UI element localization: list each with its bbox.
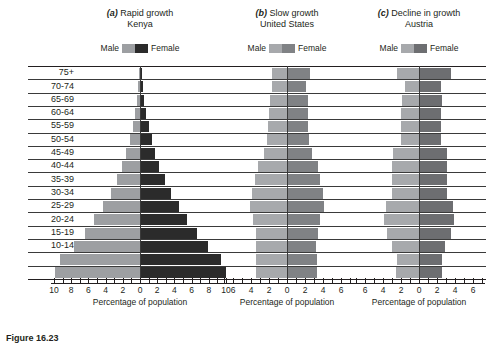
bar-female-b-40-44 — [287, 161, 318, 172]
x-tick-c-1 — [410, 278, 411, 283]
x-tick-c-5 — [374, 278, 375, 283]
x-axis-title-c: Percentage of population — [348, 297, 490, 307]
x-ticklabel-a-10: 10 — [221, 285, 230, 295]
bar-female-c-20-24 — [419, 214, 454, 225]
x-axis-c — [353, 283, 485, 284]
x-tick-c-2 — [437, 278, 438, 283]
bar-male-c-55-59 — [401, 121, 419, 132]
x-axis-title-b: Percentage of population — [214, 297, 360, 307]
age-label-30-34: 30-34 — [30, 187, 74, 198]
x-ticklabel-a-7: 4 — [172, 285, 177, 295]
age-label-50-54: 50-54 — [30, 134, 74, 145]
x-tick-a-6 — [192, 278, 193, 283]
bar-female-a-0-4 — [140, 267, 226, 278]
x-tick-a-7 — [200, 278, 201, 283]
legend-male-label: Male — [380, 43, 398, 53]
age-label-65-69: 65-69 — [30, 94, 74, 105]
legend-male-swatch — [269, 44, 282, 53]
bar-male-a-0-4 — [55, 267, 140, 278]
age-label-40-44: 40-44 — [30, 160, 74, 171]
x-ticklabel-a-8: 6 — [189, 285, 194, 295]
x-ticklabel-c-3: 0 — [417, 285, 422, 295]
bar-male-a-20-24 — [94, 214, 140, 225]
x-ticklabel-b-6: 6 — [339, 285, 344, 295]
bar-male-a-5-9 — [60, 254, 140, 265]
bar-male-a-25-29 — [103, 201, 140, 212]
age-label-10-14: 10-14 — [30, 240, 74, 251]
bar-male-a-45-49 — [126, 148, 140, 159]
gridline-row-14 — [28, 252, 486, 253]
x-axis-title-a: Percentage of population — [42, 297, 238, 307]
bar-female-b-45-49 — [287, 148, 312, 159]
bar-female-b-0-4 — [287, 267, 317, 278]
x-ticklabel-c-4: 2 — [435, 285, 440, 295]
bar-male-b-40-44 — [258, 161, 287, 172]
x-tick-a-9 — [63, 278, 64, 283]
x-tick-b-5 — [332, 278, 333, 283]
bar-male-c-0-4 — [396, 267, 419, 278]
legend-female-label: Female — [430, 43, 458, 53]
gridline-row-11 — [28, 212, 486, 213]
x-tick-c-2 — [401, 278, 402, 283]
bar-male-b-0-4 — [256, 267, 288, 278]
x-tick-b-6 — [341, 278, 342, 283]
bar-female-c-75+ — [419, 68, 451, 79]
x-ticklabel-a-9: 8 — [206, 285, 211, 295]
x-tick-a-7 — [80, 278, 81, 283]
age-label-70-74: 70-74 — [30, 81, 74, 92]
bar-female-a-45-49 — [140, 148, 155, 159]
x-ticklabel-c-1: 4 — [381, 285, 386, 295]
legend-swatches — [122, 44, 148, 53]
panel-title-c: (c) Decline in growthAustria — [348, 8, 490, 29]
x-tick-c-1 — [428, 278, 429, 283]
bar-female-a-60-64 — [140, 108, 146, 119]
bar-female-b-20-24 — [287, 214, 320, 225]
bar-male-c-5-9 — [397, 254, 420, 265]
bar-female-b-60-64 — [287, 108, 308, 119]
x-tick-c-4 — [455, 278, 456, 283]
bar-male-b-5-9 — [256, 254, 288, 265]
bar-female-c-15-19 — [419, 228, 451, 239]
bar-male-b-15-19 — [256, 228, 288, 239]
bar-female-b-65-69 — [287, 95, 308, 106]
x-ticklabel-a-3: 4 — [103, 285, 108, 295]
bar-male-c-30-34 — [392, 188, 419, 199]
x-tick-b-4 — [323, 278, 324, 283]
legend-female-label: Female — [151, 43, 179, 53]
age-label-35-39: 35-39 — [30, 174, 74, 185]
x-tick-b-2 — [305, 278, 306, 283]
x-tick-a-2 — [123, 278, 124, 283]
x-ticklabel-b-1: 4 — [249, 285, 254, 295]
bar-male-c-10-14 — [392, 241, 419, 252]
age-label-25-29: 25-29 — [30, 200, 74, 211]
x-tick-b-3 — [314, 278, 315, 283]
x-tick-a-5 — [97, 278, 98, 283]
x-tick-a-8 — [209, 278, 210, 283]
age-label-55-59: 55-59 — [30, 120, 74, 131]
x-tick-c-7 — [356, 278, 357, 283]
bar-male-c-60-64 — [401, 108, 419, 119]
bar-female-a-30-34 — [140, 188, 171, 199]
legend-swatches — [401, 44, 427, 53]
centre-axis-b — [287, 66, 288, 279]
gridline-row-7 — [28, 159, 486, 160]
x-tick-a-9 — [217, 278, 218, 283]
x-ticklabel-a-1: 8 — [69, 285, 74, 295]
bar-male-b-35-39 — [255, 174, 287, 185]
legend-female-swatch — [414, 44, 427, 53]
bar-male-c-50-54 — [401, 134, 419, 145]
panel-subtitle-a: Kenya — [42, 19, 238, 30]
bar-male-b-55-59 — [268, 121, 287, 132]
gridline-row-3 — [28, 106, 486, 107]
panel-title-a: (a) Rapid growthKenya — [42, 8, 238, 29]
bar-male-c-75+ — [397, 68, 419, 79]
bar-male-b-50-54 — [267, 134, 287, 145]
bar-female-a-40-44 — [140, 161, 159, 172]
legend-male-label: Male — [101, 43, 119, 53]
x-tick-c-3 — [446, 278, 447, 283]
bar-male-c-35-39 — [392, 174, 419, 185]
bar-female-c-65-69 — [419, 95, 442, 106]
population-pyramid-figure: (a) Rapid growthKenyaMaleFemale(b) Slow … — [0, 0, 492, 344]
x-tick-a-0 — [140, 278, 141, 283]
legend-female-label: Female — [298, 43, 326, 53]
